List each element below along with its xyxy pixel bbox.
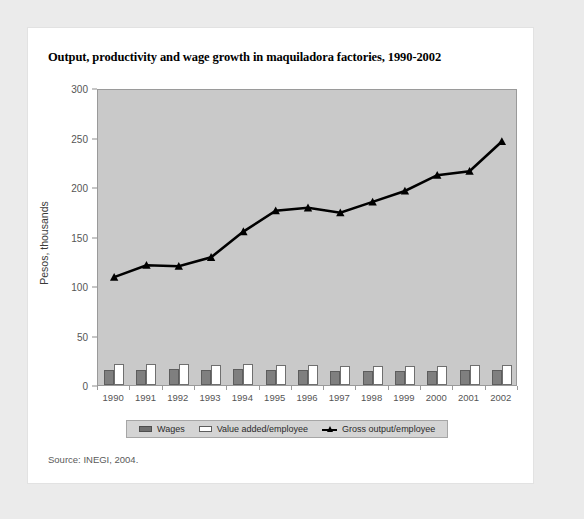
chart-title: Output, productivity and wage growth in … [48, 50, 518, 65]
y-tick-label: 300 [50, 84, 88, 95]
legend-item-gross-output: Gross output/employee [322, 424, 435, 434]
y-tick-label: 150 [50, 232, 88, 243]
source-note: Source: INEGI, 2004. [48, 454, 138, 465]
x-tick-mark [485, 386, 486, 390]
x-tick-mark [194, 386, 195, 390]
legend-label-wages: Wages [157, 424, 185, 434]
y-tick-label: 250 [50, 133, 88, 144]
x-tick-mark [129, 386, 130, 390]
legend-item-value-added: Value added/employee [199, 424, 308, 434]
gross-output-line-series [98, 90, 517, 386]
x-tick-mark [259, 386, 260, 390]
y-tick-label: 200 [50, 183, 88, 194]
gross-output-swatch-icon [322, 425, 337, 433]
legend-item-wages: Wages [139, 424, 185, 434]
y-tick-label: 0 [50, 381, 88, 392]
x-tick-mark [388, 386, 389, 390]
gross-output-markers [110, 137, 506, 280]
y-tick-label: 100 [50, 282, 88, 293]
plot-area [97, 89, 517, 386]
x-tick-mark [162, 386, 163, 390]
value-added-swatch-icon [199, 426, 212, 432]
x-tick-mark [97, 386, 98, 390]
x-tick-mark [323, 386, 324, 390]
y-axis-title: Pesos, thousands [38, 143, 50, 343]
y-tick-label: 50 [50, 331, 88, 342]
x-tick-mark [452, 386, 453, 390]
x-tick-mark [226, 386, 227, 390]
wages-swatch-icon [139, 426, 152, 432]
x-tick-mark [420, 386, 421, 390]
x-tick-label: 2002 [481, 392, 521, 403]
legend-label-value-added: Value added/employee [217, 424, 308, 434]
x-tick-mark [291, 386, 292, 390]
figure-page: Output, productivity and wage growth in … [0, 0, 584, 519]
x-tick-mark [517, 386, 518, 390]
figure-card: Output, productivity and wage growth in … [28, 28, 533, 483]
legend-label-gross-output: Gross output/employee [342, 424, 435, 434]
data-point-marker [498, 137, 506, 145]
x-tick-mark [355, 386, 356, 390]
chart-legend: Wages Value added/employee Gross output/… [126, 420, 448, 438]
